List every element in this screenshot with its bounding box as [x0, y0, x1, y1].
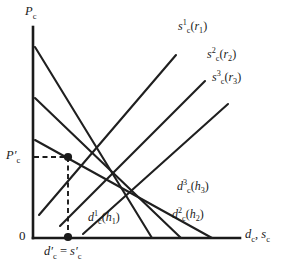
equilibrium-guides-group: [34, 157, 68, 237]
supply-demand-figure: Pc dc, sc 0 s1c(r1) s2c(r2) s3c(r3) d1c(…: [0, 0, 294, 275]
demand-curve-label-d1: d1c(h1): [88, 211, 120, 223]
quantity-axis-marker: [64, 233, 72, 241]
y-axis-label: Pc: [25, 5, 36, 18]
demand-curve-label-d2: d2c(h2): [172, 208, 204, 220]
supply-curve-s1: [39, 55, 176, 215]
eq-qs-sub: c: [78, 251, 82, 261]
demand-curve-label-d3: d3c(h3): [177, 180, 209, 192]
eq-price-base: P: [6, 148, 14, 162]
origin-label: 0: [19, 229, 26, 242]
eq-equals: =: [60, 244, 67, 258]
x-axis-label: dc, sc: [245, 228, 270, 241]
x-axis-label-s-sub: c: [266, 234, 270, 244]
supply-curve-label-s1: s1c(r1): [178, 20, 207, 32]
equilibrium-price-label: P′c: [6, 149, 20, 162]
y-axis-label-base: P: [25, 4, 33, 18]
y-axis-label-sub: c: [33, 11, 37, 21]
supply-curve-label-s3: s3c(r3): [212, 71, 241, 83]
equilibrium-point-marker: [64, 153, 72, 161]
equilibrium-quantity-label: d′c = s′c: [44, 245, 81, 258]
supply-curve-label-s2: s2c(r2): [207, 48, 236, 60]
eq-price-sub: c: [16, 155, 20, 165]
